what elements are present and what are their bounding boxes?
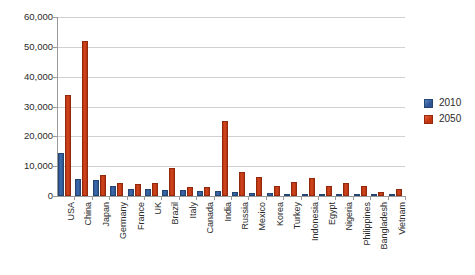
x-axis-tick-label: Canada xyxy=(206,202,215,234)
x-axis-tick-mark xyxy=(405,196,406,200)
bar-2010[interactable] xyxy=(75,179,81,196)
bar-2010[interactable] xyxy=(93,180,99,196)
bar-2050[interactable] xyxy=(326,186,332,196)
bar-chart: 60,00050,00040,00030,00020,00010,0000 US… xyxy=(0,0,475,275)
x-axis-tick-label: Vietnam xyxy=(398,202,407,235)
x-axis-tick-mark xyxy=(161,196,162,200)
legend-item[interactable]: 2010 xyxy=(424,96,461,110)
bar-group xyxy=(214,17,231,196)
y-axis-tick-label: 30,000 xyxy=(5,102,53,112)
x-axis-tick-label: Philippines xyxy=(363,202,372,246)
bar-2050[interactable] xyxy=(187,187,193,196)
x-axis-tick-label: China xyxy=(84,202,93,226)
bar-2050[interactable] xyxy=(82,41,88,196)
x-axis-tick-mark xyxy=(283,196,284,200)
bar-2010[interactable] xyxy=(110,186,116,196)
y-axis: 60,00050,00040,00030,00020,00010,0000 xyxy=(0,0,53,275)
x-axis-tick-label: USA xyxy=(67,202,76,221)
x-axis-tick-label: Italy xyxy=(189,202,198,219)
x-axis-tick-label: Japan xyxy=(102,202,111,227)
legend-swatch-icon xyxy=(424,115,433,124)
bar-2050[interactable] xyxy=(169,168,175,196)
bar-group xyxy=(248,17,265,196)
bar-group xyxy=(301,17,318,196)
x-axis-tick-mark xyxy=(179,196,180,200)
legend-label: 2050 xyxy=(439,114,461,124)
x-axis-tick-label: France xyxy=(137,202,146,230)
x-axis-tick-label: Brazil xyxy=(171,202,180,225)
bar-group xyxy=(370,17,387,196)
chart-legend: 20102050 xyxy=(424,96,461,128)
y-axis-tick-label: 20,000 xyxy=(5,132,53,142)
x-axis-tick-mark xyxy=(318,196,319,200)
bar-2050[interactable] xyxy=(256,177,262,196)
x-axis-tick-label: Bangladesh xyxy=(380,202,389,250)
bar-2050[interactable] xyxy=(274,186,280,196)
x-axis-tick-mark xyxy=(353,196,354,200)
bar-2050[interactable] xyxy=(361,186,367,196)
x-axis-tick-mark xyxy=(248,196,249,200)
x-axis-tick-label: Nigeria xyxy=(345,202,354,231)
bar-group xyxy=(196,17,213,196)
bar-2050[interactable] xyxy=(239,172,245,196)
y-axis-line xyxy=(57,17,58,197)
legend-item[interactable]: 2050 xyxy=(424,112,461,126)
x-axis-tick-mark xyxy=(74,196,75,200)
bar-group xyxy=(179,17,196,196)
bar-2050[interactable] xyxy=(135,184,141,196)
bar-2050[interactable] xyxy=(343,183,349,196)
y-axis-tick-label: 0 xyxy=(5,191,53,201)
bar-group xyxy=(57,17,74,196)
y-axis-tick-label: 60,000 xyxy=(5,12,53,22)
x-axis-tick-mark xyxy=(370,196,371,200)
bar-2050[interactable] xyxy=(396,189,402,196)
bar-2050[interactable] xyxy=(152,183,158,196)
bar-2010[interactable] xyxy=(128,189,134,196)
x-axis-tick-mark xyxy=(109,196,110,200)
bar-2050[interactable] xyxy=(65,95,71,196)
bar-group xyxy=(74,17,91,196)
bar-group xyxy=(92,17,109,196)
x-axis-tick-mark xyxy=(127,196,128,200)
x-axis-tick-mark xyxy=(92,196,93,200)
y-axis-tick-label: 50,000 xyxy=(5,42,53,52)
bar-group xyxy=(283,17,300,196)
x-axis-tick-label: Egypt xyxy=(328,202,337,225)
bar-2050[interactable] xyxy=(100,175,106,196)
x-axis-tick-mark xyxy=(144,196,145,200)
y-axis-tick-label: 40,000 xyxy=(5,72,53,82)
x-axis-tick-mark xyxy=(266,196,267,200)
bar-2050[interactable] xyxy=(204,187,210,196)
x-axis-tick-mark xyxy=(301,196,302,200)
x-axis-tick-label: UK xyxy=(154,202,163,215)
x-axis-tick-label: Mexico xyxy=(258,202,267,231)
x-axis-tick-mark xyxy=(196,196,197,200)
bar-group xyxy=(318,17,335,196)
bar-group xyxy=(335,17,352,196)
x-axis-tick-label: Korea xyxy=(276,202,285,226)
bar-group xyxy=(266,17,283,196)
bar-group xyxy=(127,17,144,196)
bar-2050[interactable] xyxy=(222,121,228,196)
bar-2050[interactable] xyxy=(309,178,315,196)
x-axis-tick-label: Germany xyxy=(119,202,128,239)
bar-group xyxy=(231,17,248,196)
bar-2050[interactable] xyxy=(291,182,297,196)
x-axis-tick-mark xyxy=(388,196,389,200)
x-axis-tick-label: Indonesia xyxy=(311,202,320,241)
x-axis-tick-label: India xyxy=(224,202,233,222)
bar-group xyxy=(144,17,161,196)
bar-2010[interactable] xyxy=(58,153,64,196)
legend-label: 2010 xyxy=(439,98,461,108)
x-axis-tick-mark xyxy=(214,196,215,200)
bar-group xyxy=(353,17,370,196)
bar-group xyxy=(109,17,126,196)
x-axis-tick-mark xyxy=(335,196,336,200)
bar-2050[interactable] xyxy=(117,183,123,196)
y-axis-tick-label: 10,000 xyxy=(5,161,53,171)
legend-swatch-icon xyxy=(424,99,433,108)
plot-area xyxy=(57,17,405,196)
x-axis-tick-label: Russia xyxy=(241,202,250,230)
bar-group xyxy=(161,17,178,196)
bar-group xyxy=(388,17,405,196)
